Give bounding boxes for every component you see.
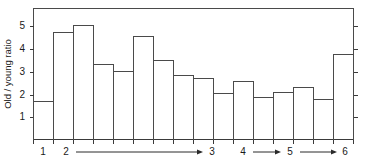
x-stage-label-5: 5 bbox=[287, 146, 293, 157]
y-tick-label-2: 2 bbox=[19, 89, 25, 100]
x-stage-label-4: 4 bbox=[240, 146, 246, 157]
bar bbox=[214, 93, 234, 139]
bar bbox=[234, 82, 254, 140]
bar bbox=[154, 60, 174, 139]
x-stage-label-1: 1 bbox=[40, 146, 46, 157]
bar bbox=[34, 101, 54, 139]
bar bbox=[94, 65, 114, 140]
y-tick-label-3: 3 bbox=[19, 66, 25, 77]
y-axis-ticks-right bbox=[354, 27, 358, 118]
bar bbox=[314, 100, 334, 140]
x-stage-label-2: 2 bbox=[63, 146, 69, 157]
chart-figure: Old / young ratio 1 2 3 4 5 bbox=[0, 0, 368, 160]
bars-group bbox=[34, 25, 354, 139]
bar bbox=[134, 37, 154, 140]
bar bbox=[194, 79, 214, 140]
bar bbox=[254, 98, 274, 140]
y-tick-label-5: 5 bbox=[19, 20, 25, 31]
y-tick-label-1: 1 bbox=[19, 111, 25, 122]
y-axis-label-text: Old / young ratio bbox=[2, 39, 13, 109]
bar bbox=[294, 88, 314, 140]
bar bbox=[74, 25, 94, 139]
bar bbox=[54, 32, 74, 139]
bar bbox=[334, 55, 354, 140]
bar bbox=[274, 92, 294, 140]
x-axis-range-arrowhead-icon bbox=[197, 149, 203, 154]
bar bbox=[174, 75, 194, 139]
x-stage-label-3: 3 bbox=[209, 146, 215, 157]
old-young-ratio-bar-chart: Old / young ratio 1 2 3 4 5 bbox=[0, 0, 368, 160]
y-axis-ticks: 1 2 3 4 5 bbox=[19, 20, 33, 122]
y-tick-label-4: 4 bbox=[19, 43, 25, 54]
x-stage-label-6: 6 bbox=[342, 146, 348, 157]
bar bbox=[114, 72, 134, 140]
x-axis-stage-labels: 123456 bbox=[40, 146, 348, 157]
y-axis-label: Old / young ratio bbox=[2, 39, 13, 109]
x-axis-range-arrowhead-icon bbox=[275, 149, 281, 154]
x-axis-bar-boundary-ticks bbox=[34, 140, 354, 144]
x-axis-range-arrowhead-icon bbox=[331, 149, 337, 154]
